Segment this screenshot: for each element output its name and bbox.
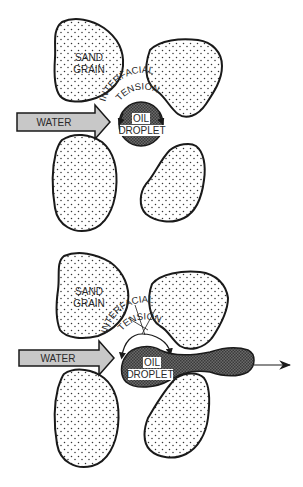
droplet-label: DROPLET [126,369,173,380]
sand-grain-label-line2: GRAIN [73,64,105,75]
sand-grain-label-line2: GRAIN [73,298,105,309]
panel-top: SAND GRAIN WATER INTERFACIAL TENSION OIL… [17,19,222,231]
sand-grain-top-right [149,272,228,349]
sand-grain-bottom-left [55,370,119,467]
sand-grain-top-right [146,39,222,116]
water-label: WATER [41,353,76,364]
panel-bottom: SAND GRAIN WATER INTERFACIAL TENSION [19,253,290,467]
oil-label: OIL [144,357,161,368]
sand-grain-label-line1: SAND [75,286,103,297]
water-label: WATER [37,117,72,128]
oil-label: OIL [133,113,150,124]
sand-grain-label-line1: SAND [75,52,103,63]
droplet-label: DROPLET [118,125,165,136]
oil-displacement-diagram: SAND GRAIN WATER INTERFACIAL TENSION OIL… [0,0,303,487]
sand-grain-bottom-right [141,144,205,222]
sand-grain-bottom-left [53,135,117,231]
